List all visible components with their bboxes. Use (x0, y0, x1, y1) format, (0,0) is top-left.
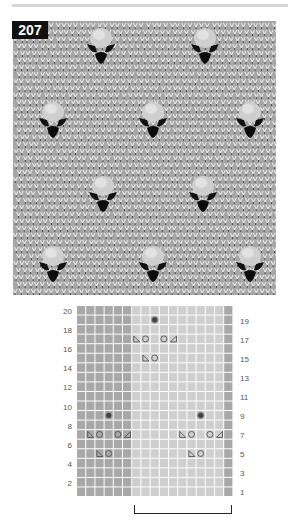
chart-cell (123, 373, 131, 382)
chart-cell (187, 354, 195, 363)
chart-cell (123, 440, 131, 449)
chart-cell (132, 363, 140, 372)
chart-cell (132, 430, 140, 439)
chart-cell (95, 344, 103, 353)
chart-cell (160, 344, 168, 353)
chart-cell (206, 449, 214, 458)
chart-cell (178, 468, 186, 477)
chart-cell (151, 373, 159, 382)
chart-cell (206, 402, 214, 411)
chart-cell (151, 363, 159, 372)
chart-cell (123, 478, 131, 487)
chart-cell (141, 449, 149, 458)
row-label: 20 (56, 307, 72, 316)
chart-cell (151, 411, 159, 420)
chart-cell (123, 363, 131, 372)
chart-cell (224, 430, 232, 439)
chart-cell (151, 344, 159, 353)
chart-cell (187, 392, 195, 401)
chart-cell (178, 402, 186, 411)
chart-cell (141, 411, 149, 420)
chart-cell (123, 402, 131, 411)
chart-cell (169, 363, 177, 372)
chart-cell (77, 344, 85, 353)
chart-cell (105, 421, 113, 430)
row-label: 16 (56, 345, 72, 354)
chart-cell (132, 468, 140, 477)
chart-cell (169, 325, 177, 334)
chart-cell (77, 335, 85, 344)
chart-cell (169, 459, 177, 468)
chart-cell (95, 411, 103, 420)
chart-cell (114, 382, 122, 391)
chart-cell (132, 459, 140, 468)
chart-cell (77, 430, 85, 439)
chart-cell (206, 306, 214, 315)
chart-cell (206, 478, 214, 487)
chart-cell (77, 421, 85, 430)
chart-cell (123, 344, 131, 353)
chart-cell (151, 487, 159, 496)
chart-cell (105, 335, 113, 344)
chart-cell (95, 325, 103, 334)
chart-cell (178, 392, 186, 401)
chart-cell (114, 440, 122, 449)
chart-cell (215, 421, 223, 430)
chart-cell (197, 459, 205, 468)
chart-cell (132, 478, 140, 487)
chart-cell (206, 487, 214, 496)
chart-cell (169, 487, 177, 496)
chart-cell (197, 306, 205, 315)
chart-cell (169, 306, 177, 315)
chart-cell (215, 402, 223, 411)
chart-cell (132, 487, 140, 496)
chart-cell (160, 487, 168, 496)
row-label: 6 (56, 441, 72, 450)
chart-cell (86, 335, 94, 344)
pattern-number-badge: 207 (12, 21, 48, 39)
chart-cell (132, 449, 140, 458)
chart-cell (169, 354, 177, 363)
chart-cell (187, 440, 195, 449)
chart-cell (141, 382, 149, 391)
chart-cell (197, 402, 205, 411)
chart-cell (197, 382, 205, 391)
chart-cell (224, 402, 232, 411)
chart-cell (86, 344, 94, 353)
chart-cell (77, 382, 85, 391)
chart-cell (95, 335, 103, 344)
chart-cell (206, 354, 214, 363)
top-rule (12, 4, 288, 7)
chart-cell (178, 335, 186, 344)
chart-cell (77, 440, 85, 449)
chart-cell (206, 335, 214, 344)
row-label: 2 (56, 479, 72, 488)
chart-cell (160, 325, 168, 334)
chart-cell (141, 373, 149, 382)
chart-cell (178, 325, 186, 334)
chart-cell (160, 382, 168, 391)
chart-cell (123, 468, 131, 477)
chart-cell (86, 487, 94, 496)
chart-cell (86, 373, 94, 382)
chart-cell (215, 449, 223, 458)
chart-cell (95, 382, 103, 391)
chart-cell (141, 306, 149, 315)
chart-cell (224, 459, 232, 468)
chart-cell (141, 478, 149, 487)
chart-cell (86, 392, 94, 401)
chart-cell (95, 363, 103, 372)
chart-cell (151, 468, 159, 477)
chart-cell (114, 325, 122, 334)
row-label: 13 (240, 374, 256, 383)
chart-cell (178, 449, 186, 458)
chart-cell (215, 487, 223, 496)
chart-cell (197, 335, 205, 344)
chart-cell (224, 373, 232, 382)
chart-cell (141, 363, 149, 372)
chart-cell (95, 459, 103, 468)
chart-cell (151, 306, 159, 315)
chart-cell (114, 363, 122, 372)
chart-cell (187, 402, 195, 411)
chart-cell (132, 421, 140, 430)
